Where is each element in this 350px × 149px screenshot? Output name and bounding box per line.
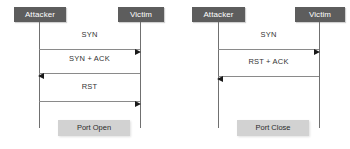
message-label: SYN + ACK [39, 54, 140, 63]
actor-attacker-header: Attacker [192, 7, 245, 22]
message-label: SYN [218, 30, 319, 39]
arrow-left-icon [217, 76, 223, 82]
actor-victim-header: Victim [295, 7, 345, 22]
message-line [39, 73, 140, 74]
message-line [39, 101, 140, 102]
status-badge-port-close: Port Close [237, 120, 309, 136]
diagram-port-open: Attacker Victim SYN SYN + ACK RST Port O… [0, 0, 175, 149]
message-rst: RST [39, 82, 140, 104]
message-rst-ack: RST + ACK [218, 57, 319, 79]
message-label: RST [39, 82, 140, 91]
status-badge-port-open: Port Open [58, 120, 130, 136]
diagram-port-close: Attacker Victim SYN RST + ACK Port Close [175, 0, 350, 149]
message-label: RST + ACK [218, 57, 319, 66]
message-line [39, 49, 140, 50]
message-syn: SYN [218, 30, 319, 52]
message-label: SYN [39, 30, 140, 39]
arrow-right-icon [314, 49, 320, 55]
actor-victim-header: Victim [118, 7, 164, 22]
lifeline-victim [319, 22, 320, 128]
lifeline-victim [140, 22, 141, 128]
arrow-right-icon [135, 101, 141, 107]
arrow-left-icon [38, 73, 44, 79]
actor-attacker-header: Attacker [14, 7, 66, 22]
message-line [218, 76, 319, 77]
message-line [218, 49, 319, 50]
sequence-diagram-canvas: Attacker Victim SYN SYN + ACK RST Port O… [0, 0, 350, 149]
message-syn: SYN [39, 30, 140, 52]
message-syn-ack: SYN + ACK [39, 54, 140, 76]
